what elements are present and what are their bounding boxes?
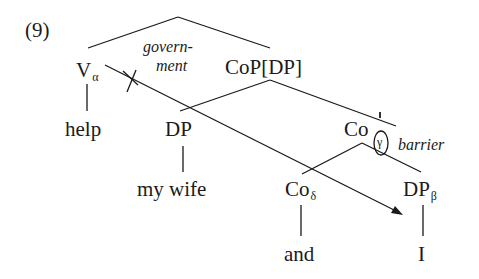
node-dp-beta-label: DP <box>403 177 430 201</box>
leaf-and: and <box>284 244 314 265</box>
government-label-line2: ment <box>156 58 187 74</box>
branch-cop-cobar <box>270 80 396 126</box>
gamma-index: γ <box>377 136 382 148</box>
branch-cop-dp <box>180 80 270 111</box>
node-co: Coδ <box>285 179 316 200</box>
node-co-subscript: δ <box>311 189 317 203</box>
node-cop: CoP[DP] <box>225 57 302 78</box>
node-v: Vα <box>76 60 98 81</box>
leaf-help: help <box>65 119 101 140</box>
government-label-line1: govern- <box>143 39 193 55</box>
example-number: (9) <box>25 20 50 41</box>
barrier-label: barrier <box>398 137 444 153</box>
node-dp-beta: DPβ <box>403 179 437 200</box>
branch-cobar-co <box>302 143 362 174</box>
leaf-i: I <box>418 244 425 265</box>
node-dp: DP <box>165 119 192 140</box>
node-v-subscript: α <box>92 70 98 84</box>
node-cobar: Co <box>344 119 369 140</box>
node-co-label: Co <box>285 177 310 201</box>
syntax-tree-diagram: (9) Vα govern- ment CoP[DP] help DP Co γ… <box>0 0 479 279</box>
node-dp-beta-subscript: β <box>431 189 437 203</box>
leaf-my-wife: my wife <box>137 179 206 200</box>
arrowhead-icon <box>391 206 403 215</box>
node-v-label: V <box>76 58 91 82</box>
